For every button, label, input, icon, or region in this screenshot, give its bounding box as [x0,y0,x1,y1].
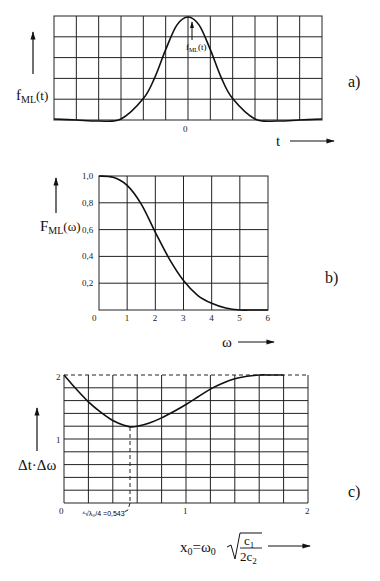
chart-c-xlabel-den: 2c2 [240,549,257,566]
chart-b-ylabel: FML(ω) [40,218,81,236]
chart-c-xlabel-lhs: x0=ω0 [180,539,216,557]
panel-label-a: a) [348,73,360,91]
chart-b-ytick: 1,0 [82,171,94,181]
panel-label-c: c) [348,483,360,501]
chart-b-xtick: 3 [181,313,186,323]
chart-c-ylabel: Δt·Δω [18,457,56,473]
chart-b-xtick: 5 [237,313,242,323]
chart-b-xtick: 0 [92,313,97,323]
chart-b-ytick: 0,8 [82,198,94,208]
chart-a: fML(t) 0 fML(t) t a) [16,16,360,149]
chart-c-grid [64,375,308,503]
chart-b-grid [99,176,268,310]
chart-c-ytick-2: 2 [56,372,61,382]
chart-b-ytick: 0,2 [82,278,93,288]
chart-c-min-annotation: ⁴√λ₀/4 =0,543 [82,510,125,517]
chart-b-xtick: 1 [125,313,129,323]
chart-a-annotation: fML(t) [186,42,207,53]
chart-c: 2 1 0 1 2 ⁴√λ₀/4 =0,543 Δt·Δω x0=ω0 c1 2… [18,372,360,566]
chart-c-xtick-2: 2 [305,506,310,516]
chart-a-grid [54,16,322,120]
chart-a-xlabel: t [276,133,281,149]
chart-a-xtick-0: 0 [183,124,188,134]
chart-b-xtick: 4 [209,313,214,323]
chart-a-ylabel: fML(t) [16,87,48,105]
chart-b-xtick: 2 [153,313,158,323]
chart-b-ytick: 0,4 [82,251,94,261]
chart-b-yticks: 1,00,80,60,40,2 [82,171,94,288]
chart-b: 1,00,80,60,40,2 0123456 FML(ω) ω b) [40,171,338,350]
chart-c-ytick-1: 1 [56,435,61,445]
chart-c-xlabel-num: c1 [244,533,254,550]
chart-c-xtick-1: 1 [183,506,188,516]
figure-canvas: fML(t) 0 fML(t) t a) 1,00,80,60,40,2 012… [0,0,380,581]
chart-b-ytick: 0,6 [82,225,94,235]
chart-c-xtick-0: 0 [59,506,64,516]
chart-c-xlabel: x0=ω0 c1 2c2 [180,533,310,566]
chart-b-xlabel: ω [222,334,232,350]
chart-b-xtick: 6 [266,313,271,323]
chart-b-xticks: 0123456 [92,313,271,323]
panel-label-b: b) [325,269,338,287]
